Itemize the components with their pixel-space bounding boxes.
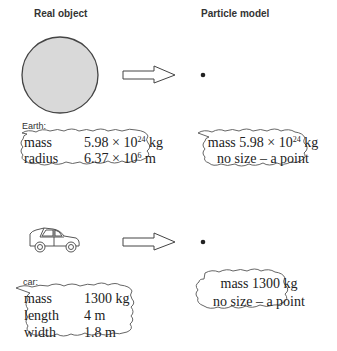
row-value: 4 m — [84, 307, 105, 324]
row-name: length — [24, 307, 84, 324]
earth-label: Earth: — [22, 121, 46, 131]
row-value: 5.98 × 1024 kg — [84, 135, 163, 151]
earth-circle — [22, 37, 98, 113]
earth-model-size: no size – a point — [204, 151, 322, 167]
row-name: width — [24, 324, 84, 341]
row-value: 1300 kg — [84, 290, 130, 307]
earth-row-radius: radius 6.37 × 106 m — [24, 151, 163, 167]
car-model-text: mass 1300 kg no size – a point — [205, 275, 313, 311]
row-name: mass — [24, 135, 84, 151]
earth-model-mass: mass 5.98 × 1024 kg — [204, 135, 322, 151]
earth-row-mass: mass 5.98 × 1024 kg — [24, 135, 163, 151]
car-model-mass: mass 1300 kg — [205, 275, 313, 293]
car-data-table: mass 1300 kg length 4 m width 1.8 m — [24, 290, 130, 341]
car-icon — [30, 228, 79, 252]
row-value: 6.37 × 106 m — [84, 151, 156, 167]
car-row-length: length 4 m — [24, 307, 130, 324]
row-name: mass — [24, 290, 84, 307]
car-label: car: — [23, 277, 38, 287]
row-name: radius — [24, 151, 84, 167]
arrow-icon — [123, 233, 175, 250]
arrow-icon — [123, 66, 175, 83]
particle-dot — [201, 240, 206, 245]
car-row-width: width 1.8 m — [24, 324, 130, 341]
row-value: 1.8 m — [84, 324, 116, 341]
earth-model-text: mass 5.98 × 1024 kg no size – a point — [204, 135, 322, 167]
earth-data-table: mass 5.98 × 1024 kg radius 6.37 × 106 m — [24, 135, 163, 167]
particle-dot — [201, 73, 206, 78]
car-model-size: no size – a point — [205, 293, 313, 311]
car-row-mass: mass 1300 kg — [24, 290, 130, 307]
